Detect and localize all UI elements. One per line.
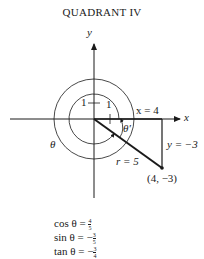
fraction: 45 [88,218,91,231]
label-one-vertical: 1 [81,96,87,108]
fraction: 35 [93,232,96,245]
label-r-eq: r = 5 [116,155,139,167]
label-x-eq: x = 4 [136,104,159,116]
label-one-horizontal: 1 [106,98,112,110]
coordinate-diagram [0,0,204,259]
label-y-eq: y = −3 [167,138,198,150]
label-theta: θ [50,138,55,150]
label-point: (4, −3) [147,172,177,184]
label-theta-ref: θ′ [123,122,131,134]
fraction: 34 [93,246,96,259]
point-marker [160,166,164,170]
equation-cos: cos θ = 45 [54,217,96,231]
equation-tan: tan θ = −34 [54,245,96,259]
y-axis-label: y [87,26,92,38]
trig-equations: cos θ = 45 sin θ = −35 tan θ = −34 [54,217,96,259]
x-axis-label: x [184,111,189,123]
equation-sin: sin θ = −35 [54,231,96,245]
